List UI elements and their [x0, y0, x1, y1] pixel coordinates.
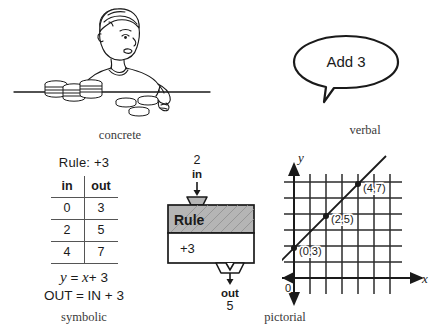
equation-equals: =	[67, 270, 82, 285]
table-row: 0 3	[51, 198, 118, 220]
equation-rhs-constant: + 3	[89, 270, 108, 285]
equation-words: OUT = IN + 3	[14, 288, 154, 303]
machine-rule-title: Rule	[174, 212, 205, 228]
coordinate-graph: (0,3) (2,5) (4,7) y x 0	[282, 152, 432, 311]
caption-pictorial: pictorial	[225, 310, 345, 325]
table-row: 4 7	[51, 242, 118, 264]
data-point-label-4-7: (4,7)	[363, 182, 386, 194]
machine-input-value: 2	[194, 153, 201, 167]
table-header-out: out	[84, 176, 118, 198]
x-axis-label: x	[421, 271, 428, 286]
speech-bubble-text: Add 3	[326, 53, 365, 70]
machine-input-label: in	[192, 168, 202, 180]
table-row: 2 5	[51, 220, 118, 242]
y-axis-arrow-down	[288, 292, 300, 306]
caption-symbolic: symbolic	[14, 310, 154, 325]
equation-rhs-variable: x	[82, 269, 89, 285]
caption-verbal: verbal	[305, 123, 425, 138]
table-header-row: in out	[51, 176, 118, 198]
equation-lhs-variable: y	[60, 269, 67, 285]
table-cell-in: 4	[51, 242, 85, 264]
table-header-in: in	[51, 176, 85, 198]
worksheet-page: concrete Add 3 verbal Rule: +3 in out 0 …	[0, 0, 439, 332]
data-point-4-7	[355, 181, 361, 187]
in-out-table: in out 0 3 2 5 4 7	[51, 176, 118, 264]
function-machine: 2 in	[160, 152, 270, 316]
verbal-speech-bubble: Add 3	[276, 28, 416, 112]
origin-label: 0	[285, 282, 291, 294]
table-cell-out: 7	[84, 242, 118, 264]
table-cell-in: 2	[51, 220, 85, 242]
y-axis-label: y	[296, 152, 304, 165]
machine-operation-text: +3	[180, 241, 195, 256]
data-point-label-2-5: (2,5)	[331, 213, 354, 225]
table-cell-in: 0	[51, 198, 85, 220]
function-machine-drawing: 2 in	[160, 152, 270, 312]
data-point-0-3	[291, 245, 297, 251]
data-point-2-5	[323, 213, 329, 219]
data-point-label-0-3: (0,3)	[299, 245, 322, 257]
table-cell-out: 3	[84, 198, 118, 220]
machine-input-hopper	[187, 197, 207, 205]
table-cell-out: 5	[84, 220, 118, 242]
rule-statement: Rule: +3	[14, 155, 154, 170]
concrete-illustration	[12, 4, 212, 128]
equation-algebraic: y = x+ 3	[14, 269, 154, 286]
boy-with-counters-drawing	[12, 4, 212, 124]
x-axis	[282, 272, 424, 284]
symbolic-panel: Rule: +3 in out 0 3 2 5 4 7 y = x+ 3 OUT…	[14, 155, 154, 303]
coordinate-graph-drawing: (0,3) (2,5) (4,7) y x 0	[282, 152, 432, 307]
speech-bubble-shape: Add 3	[276, 28, 416, 108]
machine-output-label: out	[221, 287, 239, 299]
caption-concrete: concrete	[60, 128, 180, 143]
